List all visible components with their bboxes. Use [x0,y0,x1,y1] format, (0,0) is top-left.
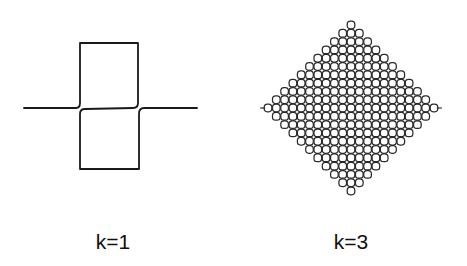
lattice-loop [331,137,339,145]
lattice-loop [297,104,305,112]
lattice-loop [347,179,355,187]
lattice-loop [389,63,397,71]
lattice-loop [322,146,330,154]
lattice-loop [347,38,355,46]
lattice-loop [331,54,339,62]
lattice-loop [314,79,322,87]
lattice-loop [314,104,322,112]
lattice-loop [347,54,355,62]
lattice-loop [331,162,339,170]
lattice-loop [397,112,405,120]
lattice-loop [372,112,380,120]
lattice-loop [289,79,297,87]
lattice-loop [364,112,372,120]
lattice-loop [364,96,372,104]
lattice-loop [380,79,388,87]
lattice-loop [314,88,322,96]
lattice-loop [264,104,272,112]
lattice-loop [331,88,339,96]
lattice-loop [339,29,347,37]
lattice-loop [314,96,322,104]
lattice-loop [380,137,388,145]
lattice-loop [331,71,339,79]
lattice-loop [322,104,330,112]
lattice-loop [364,171,372,179]
lattice-loop [339,104,347,112]
lattice-loop [364,146,372,154]
label-k3: k=3 [334,230,368,254]
lattice-loop [297,88,305,96]
lattice-loop [405,96,413,104]
lattice-loop [306,88,314,96]
lattice-loop [372,146,380,154]
lattice-loop [372,137,380,145]
lattice-loop [306,121,314,129]
lattice-loop [289,88,297,96]
lattice-loop [272,96,280,104]
lattice-loop [331,63,339,71]
lattice-loop [380,129,388,137]
lattice-loop [380,112,388,120]
lattice-loop [364,54,372,62]
lattice-loop [306,129,314,137]
lattice-loop [297,112,305,120]
lattice-loop [355,121,363,129]
lattice-loop [372,63,380,71]
lattice-loop [364,46,372,54]
lattice-loop [322,79,330,87]
lattice-loop [306,104,314,112]
lattice-loop [422,112,430,120]
lattice-loop [339,137,347,145]
lattice-loop [339,129,347,137]
lattice-loop [364,104,372,112]
figure-k3-diamond-lattice [260,21,442,195]
lattice-loop [289,121,297,129]
lattice-loop [355,71,363,79]
lattice-loop [405,88,413,96]
lattice-loop [297,79,305,87]
lattice-loop [347,21,355,29]
lattice-loop [347,63,355,71]
diagram-canvas [0,0,467,266]
lattice-loop [380,54,388,62]
lattice-loop [364,38,372,46]
lattice-loop [339,63,347,71]
lattice-loop [339,179,347,187]
lattice-loop [397,121,405,129]
lattice-loop [314,54,322,62]
lattice-loop [364,154,372,162]
lattice-loop [389,104,397,112]
lattice-loop [372,96,380,104]
lattice-loop [405,129,413,137]
lattice-loop [306,146,314,154]
lattice-loop [306,137,314,145]
figure-k1-loop [24,43,197,169]
lattice-loop [355,96,363,104]
lattice-loop [405,121,413,129]
lattice-loop [339,71,347,79]
lattice-loop [355,171,363,179]
lattice-loop [380,154,388,162]
lattice-loop [355,129,363,137]
lattice-loop [322,63,330,71]
lattice-loop [297,129,305,137]
lattice-loop [355,162,363,170]
lattice-loop [389,129,397,137]
lattice-loop [364,63,372,71]
lattice-loop [339,154,347,162]
lattice-loop [322,112,330,120]
lattice-loop [347,121,355,129]
lattice-loop [339,88,347,96]
lattice-loop [322,154,330,162]
lattice-loop [355,63,363,71]
lattice-loop [281,104,289,112]
lattice-loop [289,112,297,120]
lattice-loop [314,154,322,162]
lattice-loop [281,121,289,129]
lattice-loop [397,71,405,79]
lattice-loop [306,63,314,71]
lattice-loop [364,121,372,129]
lattice-loop [405,79,413,87]
lattice-loop [322,54,330,62]
lattice-loop [414,121,422,129]
